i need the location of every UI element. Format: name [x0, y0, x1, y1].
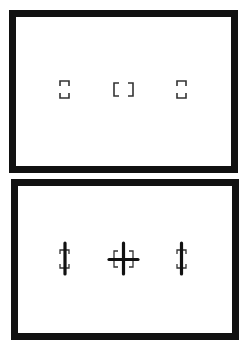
af-point-left-bottom-icon — [60, 243, 69, 274]
af-point-right-bottom-icon — [177, 243, 186, 274]
af-points-bottom — [0, 0, 248, 346]
af-point-center-bottom-icon — [109, 243, 138, 274]
